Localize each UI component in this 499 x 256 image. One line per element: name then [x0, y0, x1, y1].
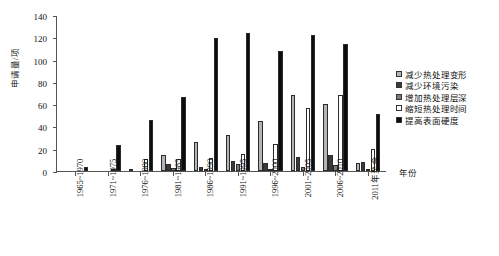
bar-group	[287, 16, 319, 171]
bar-group	[92, 16, 124, 171]
bar	[361, 162, 365, 171]
legend-swatch	[396, 82, 402, 88]
x-tick-label: 1976~1980	[140, 159, 150, 198]
x-tick-label: 1996~2000	[270, 159, 280, 198]
x-tick-label: 1981~1985	[173, 159, 183, 198]
bar	[166, 164, 170, 171]
bar	[194, 142, 198, 171]
bar	[311, 35, 315, 171]
x-label-cell: 1991~1995	[222, 176, 255, 250]
y-tick-label: 100	[34, 57, 48, 67]
legend-item: 增加热处理层深	[396, 91, 497, 103]
x-label-cell: 1971~1975	[92, 176, 125, 250]
x-label-cell: 2001~2005	[287, 176, 320, 250]
bar	[328, 155, 332, 171]
bar	[214, 38, 218, 171]
legend-label: 减少环境污染	[405, 79, 458, 91]
legend-swatch	[396, 105, 402, 111]
bar-group	[190, 16, 222, 171]
legend-swatch	[396, 71, 402, 77]
bar	[296, 157, 300, 171]
y-tick-label: 80	[38, 79, 47, 89]
legend-label: 减少热处理变形	[405, 68, 467, 80]
legend-item: 缩短热处理时间	[396, 103, 497, 115]
y-tick-label: 40	[38, 123, 47, 133]
y-tick-label: 140	[34, 12, 48, 22]
x-tick-label: 2006~2010	[335, 159, 345, 198]
y-axis-title: 申请量/项	[8, 28, 20, 108]
x-tick-label: 1965~1970	[75, 159, 85, 198]
bar	[263, 163, 267, 171]
bars-container	[57, 16, 386, 171]
x-tick-label: 1971~1975	[108, 159, 118, 198]
y-tick-label: 60	[38, 101, 47, 111]
bar-group	[125, 16, 157, 171]
x-tick-label: 2011年至今	[368, 156, 380, 200]
legend-label: 缩短热处理时间	[405, 102, 467, 114]
x-tick-label: 1991~1995	[238, 159, 248, 198]
x-label-cell: 1981~1985	[157, 176, 190, 250]
bar-group	[352, 16, 384, 171]
bar	[356, 163, 360, 171]
bar	[246, 33, 250, 171]
x-label-cell: 2006~2010	[319, 176, 352, 250]
x-label-cell: 1965~1970	[59, 176, 92, 250]
chart-legend: 减少热处理变形减少环境污染增加热处理层深缩短热处理时间提高表面硬度	[396, 68, 497, 126]
bar	[291, 95, 295, 171]
bar	[129, 169, 133, 171]
x-tick-label: 1986~1990	[205, 159, 215, 198]
x-label-cell: 1996~2000	[254, 176, 287, 250]
legend-item: 提高表面硬度	[396, 114, 497, 126]
legend-item: 减少热处理变形	[396, 68, 497, 80]
bar	[343, 44, 347, 171]
plot-area: 020406080100120140	[56, 16, 386, 172]
x-axis-title: 年份	[399, 166, 417, 178]
legend-swatch	[396, 117, 402, 123]
bar	[199, 167, 203, 171]
x-label-cell: 1976~1980	[124, 176, 157, 250]
bar	[278, 51, 282, 171]
x-tick-label: 2001~2005	[303, 159, 313, 198]
bar	[323, 104, 327, 171]
x-axis-labels: 1965~19701971~19751976~19801981~19851986…	[56, 176, 386, 250]
bar	[258, 121, 262, 171]
y-tick-label: 0	[43, 168, 48, 178]
legend-label: 增加热处理层深	[405, 91, 467, 103]
legend-swatch	[396, 94, 402, 100]
bar-group	[254, 16, 286, 171]
bar-group	[60, 16, 92, 171]
bar	[231, 161, 235, 171]
y-tick-label: 120	[34, 34, 48, 44]
legend-item: 减少环境污染	[396, 80, 497, 92]
x-label-cell: 2011年至今	[352, 176, 385, 250]
bar-group	[157, 16, 189, 171]
bar-group	[319, 16, 351, 171]
bar	[161, 155, 165, 171]
y-tick-label: 20	[38, 146, 47, 156]
bar-chart-figure: 申请量/项 020406080100120140 1965~19701971~1…	[0, 0, 499, 256]
x-label-cell: 1986~1990	[189, 176, 222, 250]
legend-label: 提高表面硬度	[405, 114, 458, 126]
bar-group	[222, 16, 254, 171]
bar	[226, 135, 230, 171]
